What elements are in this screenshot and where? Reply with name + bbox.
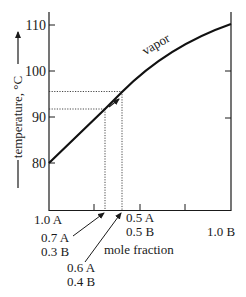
- y-tick-110: 110: [26, 18, 46, 33]
- phase-diagram: 110 100 90 80 temperature, °C vapor 1.0 …: [0, 0, 246, 297]
- y-ticks-right: [225, 71, 231, 118]
- annotation-1-arrow-icon: [73, 213, 104, 236]
- y-ticks-left: [49, 25, 55, 163]
- y-axis-label: temperature, °C: [10, 76, 25, 158]
- y-tick-90: 90: [32, 110, 46, 125]
- y-tick-80: 80: [32, 156, 46, 171]
- x-label-right: 1.0 B: [207, 224, 236, 239]
- annotation-2-line1: 0.6 A: [67, 260, 96, 275]
- annotation-2-line2: 0.4 B: [67, 274, 96, 289]
- guide-lines: [49, 92, 122, 211]
- x-axis-label: mole fraction: [104, 242, 174, 257]
- x-label-mid-b: 0.5 B: [126, 224, 155, 239]
- x-label-mid-a: 0.5 A: [126, 210, 155, 225]
- y-tick-100: 100: [25, 64, 46, 79]
- annotation-1-line1: 0.7 A: [41, 230, 70, 245]
- annotation-1-line2: 0.3 B: [41, 244, 70, 259]
- x-label-left: 1.0 A: [34, 212, 63, 227]
